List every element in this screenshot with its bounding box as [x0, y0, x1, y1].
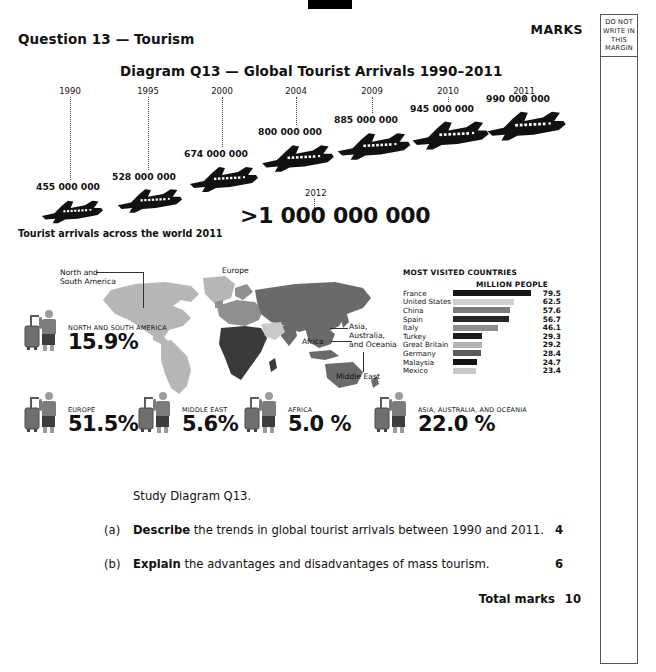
total-marks-label: Total marks [479, 592, 555, 606]
timeline-value: 674 000 000 [184, 148, 248, 159]
timeline-plane [408, 118, 491, 156]
chart-rows: France79.5United States62.5China57.6Spai… [403, 289, 583, 375]
chart-row: United States62.5 [403, 298, 583, 307]
timeline-year: 1990 [54, 86, 86, 96]
chart-bar [453, 307, 510, 313]
chart-title: MOST VISITED COUNTRIES [403, 268, 583, 277]
chart-row: Great Britain29.2 [403, 341, 583, 350]
timeline-value: 885 000 000 [334, 114, 398, 125]
chart-category-label: Mexico [403, 366, 453, 375]
chart-bar-track [453, 316, 531, 322]
chart-row: France79.5 [403, 289, 583, 298]
region-africa [219, 326, 267, 380]
timeline-value: 990 000 000 [486, 93, 550, 104]
chart-bar-track [453, 359, 531, 365]
airplane-icon [186, 164, 260, 194]
airplane-icon [114, 186, 184, 215]
highlight-year: 2012 [305, 188, 327, 198]
stat-europe: EUROPE 51.5% [22, 390, 138, 434]
chart-bar [453, 333, 482, 339]
map-label-north-south-america: North and South America [60, 268, 116, 286]
traveller-luggage-icon [372, 390, 416, 434]
study-diagram-instruction: Study Diagram Q13. [133, 489, 251, 503]
traveller-luggage-icon [22, 390, 66, 434]
leader-middle-east [363, 352, 364, 372]
region-indonesia [309, 350, 339, 360]
timeline-leader-line [296, 97, 298, 125]
timeline-leader-line [148, 97, 150, 170]
registration-bar [308, 0, 352, 9]
diagram-title: Diagram Q13 — Global Tourist Arrivals 19… [120, 63, 502, 79]
timeline-year: 2010 [432, 86, 464, 96]
chart-bar-track [453, 368, 531, 374]
chart-bar [453, 316, 509, 322]
map-label-africa: Africa [302, 337, 324, 346]
stat-asia-australia-oceania: ASIA, AUSTRALIA, AND OCEANIA 22.0 % [372, 390, 527, 434]
chart-row: China57.6 [403, 306, 583, 315]
chart-bar [453, 342, 482, 348]
question-a-text: Describe the trends in global tourist ar… [133, 523, 544, 537]
airplane-icon [483, 108, 568, 143]
question-b-text: Explain the advantages and disadvantages… [133, 557, 490, 571]
timeline-plane [333, 130, 413, 166]
chart-row: Spain56.7 [403, 315, 583, 324]
map-label-asia-line3: and Oceania [349, 340, 397, 349]
highlight-value: >1 000 000 000 [240, 203, 430, 228]
chart-row: Turkey29.3 [403, 332, 583, 341]
timeline-year: 2004 [280, 86, 312, 96]
chart-row: Germany28.4 [403, 349, 583, 358]
question-a-keyword: Describe [133, 523, 190, 537]
timeline-leader-line [222, 97, 224, 147]
question-b-keyword: Explain [133, 557, 181, 571]
chart-bar-track [453, 290, 531, 296]
timeline-plane [186, 164, 260, 198]
stat-region-percent: 15.9% [68, 332, 167, 352]
chart-bar-track [453, 333, 531, 339]
traveller-luggage-icon [242, 390, 286, 434]
chart-bar [453, 359, 477, 365]
margin-note-line-4: MARGIN [605, 44, 633, 53]
timeline-year: 2000 [206, 86, 238, 96]
stat-region-percent: 22.0 % [418, 414, 527, 434]
chart-bar [453, 290, 531, 296]
map-label-na-line1: North and [60, 268, 116, 277]
margin-note: DO NOT WRITE IN THIS MARGIN [601, 15, 637, 57]
leader-asia [330, 328, 348, 329]
region-europe [217, 300, 263, 326]
timeline-plane [38, 198, 105, 229]
timeline-value: 528 000 000 [112, 171, 176, 182]
timeline-plane [483, 108, 568, 147]
map-label-middle-east: Middle East [336, 372, 380, 381]
chart-bar-track [453, 307, 531, 313]
timeline-value: 455 000 000 [36, 181, 100, 192]
stat-north-south-america: NORTH AND SOUTH AMERICA 15.9% [22, 308, 167, 352]
timeline-plane [114, 186, 184, 219]
timeline-plane [258, 142, 336, 178]
chart-row: Italy46.1 [403, 323, 583, 332]
question-a-marks: 4 [555, 523, 563, 537]
traveller-luggage-icon [136, 390, 180, 434]
question-b-marks: 6 [555, 557, 563, 571]
region-scandinavia [235, 284, 253, 300]
map-label-na-line2: South America [60, 277, 116, 286]
chart-bar-track [453, 342, 531, 348]
chart-bar-track [453, 299, 531, 305]
chart-row: Malaysia24.7 [403, 358, 583, 367]
stat-middle-east: MIDDLE EAST 5.6% [136, 390, 238, 434]
timeline-year: 1995 [132, 86, 164, 96]
total-marks-value: 10 [565, 592, 581, 606]
chart-value-label: 23.4 [531, 366, 561, 375]
timeline-leader-line [448, 97, 450, 102]
margin-note-line-3: THIS [611, 36, 627, 45]
map-label-asia-line1: Asia, [349, 322, 397, 331]
question-title: Question 13 — Tourism [18, 31, 194, 47]
most-visited-countries-chart: MOST VISITED COUNTRIES MILLION PEOPLE Fr… [403, 268, 583, 375]
total-marks: Total marks 10 [479, 592, 581, 606]
airplane-icon [408, 118, 491, 152]
margin-note-line-2: WRITE IN [603, 27, 635, 36]
question-a-label: (a) [104, 523, 120, 537]
map-label-asia-line2: Australia, [349, 331, 397, 340]
timeline-value: 945 000 000 [410, 103, 474, 114]
airplane-icon [258, 142, 336, 174]
stat-africa: AFRICA 5.0 % [242, 390, 351, 434]
